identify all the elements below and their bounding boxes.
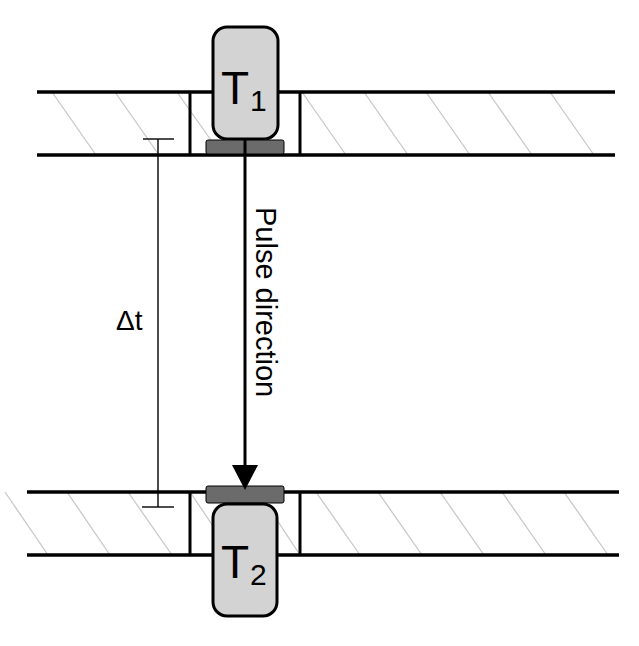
bottom-pipe-wall: [5, 492, 619, 555]
bottom-wall-hatching: [5, 492, 608, 555]
top-wall-hatching: [52, 92, 594, 155]
transducer-t1: T1: [206, 27, 284, 154]
delta-t-label: Δt: [116, 305, 143, 336]
pulse-direction-label: Pulse direction: [250, 207, 282, 397]
top-pipe-wall: [37, 92, 615, 155]
pulse-diagram: Δt T1 T2 Pulse direction: [0, 0, 639, 646]
transducer-t2: T2: [206, 486, 284, 616]
delta-t-dimension: [142, 139, 174, 507]
